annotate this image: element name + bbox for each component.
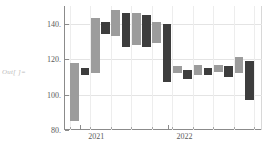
bar-0-light[interactable] bbox=[70, 63, 79, 122]
bar-8-light[interactable] bbox=[152, 22, 161, 43]
bar-13-dark[interactable] bbox=[204, 68, 213, 75]
gridline-y-100 bbox=[65, 95, 262, 96]
x-tick-minor-2 bbox=[90, 127, 91, 129]
bar-15-dark[interactable] bbox=[224, 66, 233, 77]
y-tick-label-120: 120. bbox=[47, 55, 61, 64]
x-tick-minor-14 bbox=[213, 127, 214, 129]
gridline-x-18 bbox=[254, 6, 255, 130]
x-tick-2021 bbox=[80, 125, 81, 129]
bar-4-light[interactable] bbox=[111, 10, 120, 37]
bar-5-dark[interactable] bbox=[122, 13, 131, 47]
y-tick-100 bbox=[65, 95, 69, 96]
x-tick-minor-4 bbox=[111, 127, 112, 129]
bar-9-dark[interactable] bbox=[163, 24, 172, 83]
bar-1-dark[interactable] bbox=[81, 68, 90, 75]
bar-17-dark[interactable] bbox=[245, 61, 254, 100]
output-prompt-label: Out[ ]= bbox=[2, 68, 26, 76]
waterfall-chart: 80.100.120.140. 20212022 bbox=[44, 0, 264, 143]
bar-14-light[interactable] bbox=[214, 65, 223, 72]
y-tick-label-140: 140. bbox=[47, 19, 61, 28]
bar-3-dark[interactable] bbox=[101, 22, 110, 34]
plot-area: 80.100.120.140. 20212022 bbox=[64, 6, 262, 130]
bar-12-light[interactable] bbox=[194, 65, 203, 76]
x-tick-label-2022: 2022 bbox=[177, 132, 193, 141]
x-tick-minor-8 bbox=[152, 127, 153, 129]
x-tick-minor-0 bbox=[70, 127, 71, 129]
x-tick-minor-6 bbox=[131, 127, 132, 129]
x-tick-minor-16 bbox=[234, 127, 235, 129]
x-tick-2022 bbox=[168, 125, 169, 129]
bar-16-light[interactable] bbox=[235, 57, 244, 73]
x-axis-line bbox=[64, 129, 262, 130]
notebook-output-cell: Out[ ]= 80.100.120.140. 20212022 bbox=[0, 0, 264, 143]
x-tick-minor-10 bbox=[172, 127, 173, 129]
y-tick-80 bbox=[65, 130, 69, 131]
bar-11-dark[interactable] bbox=[183, 70, 192, 79]
y-tick-label-80: 80. bbox=[51, 126, 61, 135]
y-tick-140 bbox=[65, 24, 69, 25]
y-tick-label-100: 100. bbox=[47, 90, 61, 99]
y-tick-120 bbox=[65, 59, 69, 60]
x-tick-label-2021: 2021 bbox=[88, 132, 104, 141]
x-tick-minor-12 bbox=[193, 127, 194, 129]
bar-7-dark[interactable] bbox=[142, 15, 151, 47]
x-tick-minor-18 bbox=[254, 127, 255, 129]
bar-2-light[interactable] bbox=[91, 18, 100, 73]
bar-10-light[interactable] bbox=[173, 66, 182, 73]
bar-6-light[interactable] bbox=[132, 13, 141, 45]
